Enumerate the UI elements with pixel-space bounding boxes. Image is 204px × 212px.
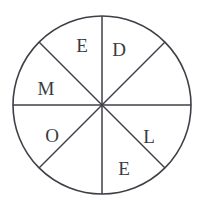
sector-letter-upper-left: M (38, 78, 55, 99)
sector-letter-top-left-of-vertical: E (76, 35, 88, 56)
sector-letter-lower-right: L (143, 126, 155, 147)
sector-letter-top-right-of-vertical: D (112, 39, 126, 60)
letter-wheel-figure: E D L E O M (0, 0, 204, 212)
wheel-diagram: E D L E O M (0, 0, 204, 212)
sector-letter-bottom-right-of-vertical: E (118, 158, 130, 179)
sector-letter-lower-left: O (45, 125, 59, 146)
